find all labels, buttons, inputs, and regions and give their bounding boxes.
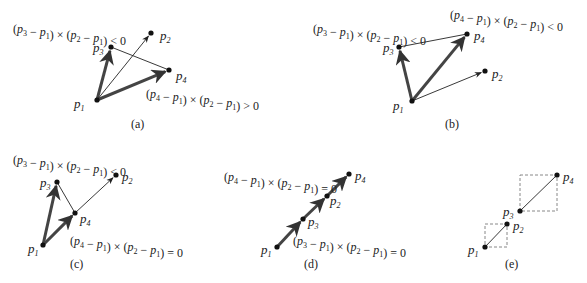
point-label-p4: p4	[175, 68, 187, 85]
point-p4-dot	[464, 31, 469, 36]
points	[40, 30, 559, 249]
point-p1-dot	[409, 98, 414, 103]
point-p4-dot	[166, 67, 171, 72]
point-p3-dot	[517, 208, 522, 213]
point-label-p1: p1	[27, 241, 39, 258]
vector-p4-p2-arrow	[75, 178, 113, 213]
point-label-p1: p1	[392, 98, 404, 115]
vector-p1-p3-arrow	[43, 186, 56, 245]
point-p4-dot	[554, 172, 559, 177]
cross-product-equation-a-1: (p4 − p1) × (p2 − p1) > 0	[146, 87, 259, 113]
point-label-p3: p3	[39, 175, 51, 192]
panel-caption-c: (c)	[70, 257, 83, 271]
point-p1-dot	[482, 244, 487, 249]
cross-product-equation-a-0: (p3 − p1) × (p2 − p1) < 0	[13, 22, 126, 48]
point-label-p4: p4	[79, 211, 91, 228]
cross-product-equation-b-0: (p3 − p1) × (p2 − p1) < 0	[313, 22, 426, 48]
point-p1-dot	[40, 242, 45, 247]
point-p2-dot	[482, 68, 487, 73]
segment-intersection-diagram: p1p2p3p4p1p2p3p4p1p2p3p4p1p2p3p4p1p2p3p4…	[0, 0, 587, 283]
point-label-p2: p2	[159, 28, 171, 45]
point-label-p1: p1	[260, 242, 272, 259]
segments	[43, 34, 557, 247]
cross-product-equation-b-1: (p4 − p1) × (p2 − p1) < 0	[450, 8, 563, 34]
panel-caption-d: (d)	[304, 257, 318, 271]
point-p1-dot	[94, 97, 99, 102]
point-label-p2: p2	[512, 218, 524, 235]
vector-p3-p4-segment	[520, 175, 557, 211]
panel-caption-e: (e)	[505, 257, 518, 271]
point-p2-dot	[148, 30, 153, 35]
panel-caption-a: (a)	[131, 117, 144, 131]
point-label-p2: p2	[491, 66, 503, 83]
point-label-p3: p3	[502, 204, 514, 221]
point-label-p1: p1	[73, 96, 85, 113]
point-p3-dot	[54, 179, 59, 184]
point-label-p4: p4	[562, 169, 574, 186]
point-label-p4: p4	[354, 168, 366, 185]
point-label-p3: p3	[307, 214, 319, 231]
vector-p1-p3-arrow	[400, 51, 412, 101]
cross-product-equation-d-0: (p4 − p1) × (p2 − p1) = 0	[224, 170, 337, 196]
panel-caption-b: (b)	[445, 117, 459, 131]
point-label-p1: p1	[467, 242, 479, 259]
point-p3-dot	[300, 216, 305, 221]
vector-p3-p4-segment	[111, 47, 169, 70]
vector-p1-p2-segment	[485, 224, 507, 247]
point-p4-dot	[346, 171, 351, 176]
cross-product-equation-c-0: (p3 − p1) × (p2 − p1) < 0	[13, 153, 126, 179]
point-p2-dot	[504, 221, 509, 226]
cross-product-equation-c-1: (p4 − p1) × (p2 − p1) = 0	[70, 234, 183, 260]
vector-p3-p4-segment	[57, 182, 75, 213]
point-label-p4: p4	[473, 28, 485, 45]
point-p4-dot	[72, 210, 77, 215]
point-p1-dot	[274, 244, 279, 249]
